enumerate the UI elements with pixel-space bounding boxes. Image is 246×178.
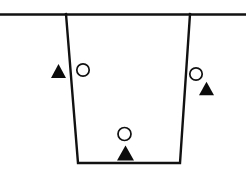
trench-cross-section-diagram xyxy=(0,0,246,178)
diagram-canvas xyxy=(0,0,246,178)
bottom-circle-marker xyxy=(118,128,131,141)
left-circle-marker xyxy=(77,64,89,76)
right-circle-marker xyxy=(190,68,202,80)
